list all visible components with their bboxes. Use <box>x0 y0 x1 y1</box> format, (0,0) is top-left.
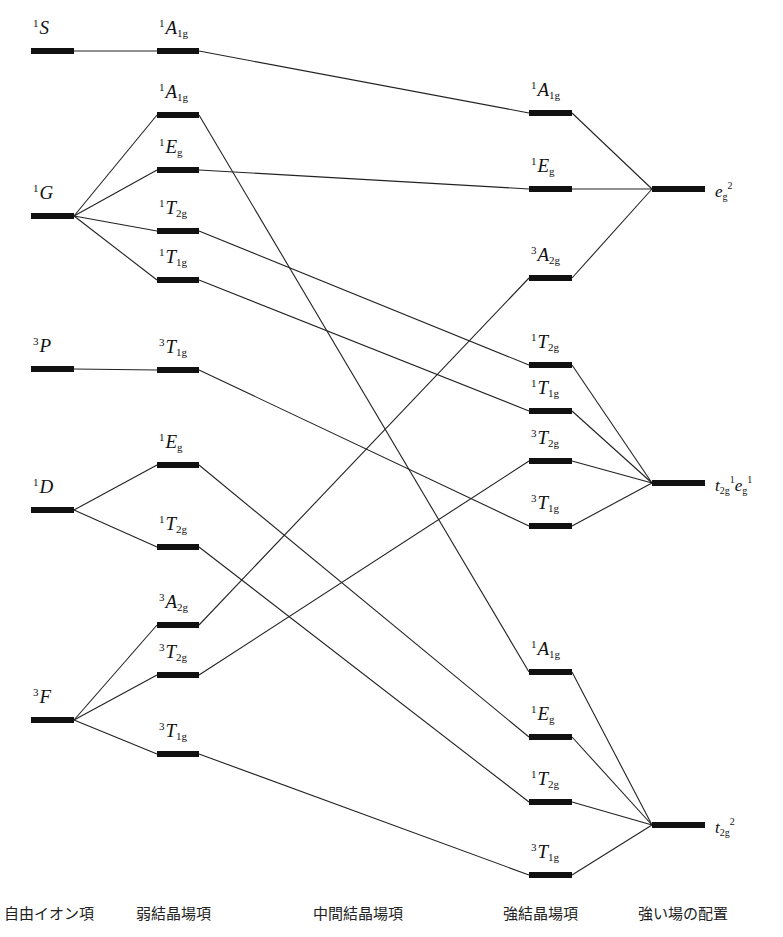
level-bar-S_1Eg_a <box>529 186 572 192</box>
level-bar-S_1Eg_c <box>529 734 572 740</box>
term-label-W_1A1g_G: 1A1g <box>159 82 188 101</box>
config-label-C_t2geg: t2g1eg1 <box>715 477 752 494</box>
correlation-line <box>74 625 157 720</box>
term-label-F_1G: 1G <box>33 183 53 202</box>
level-bar-W_1A1g_G <box>157 112 199 118</box>
term-label-F_3P: 3P <box>33 336 51 355</box>
level-bar-F_1S <box>31 48 74 54</box>
level-bar-F_1D <box>31 507 74 513</box>
correlation-line <box>199 465 529 737</box>
term-label-W_3T1g_F: 3T1g <box>159 721 187 740</box>
config-label-C_t2g2: t2g2 <box>715 819 735 836</box>
correlation-line <box>74 115 157 216</box>
level-bar-S_3T1g_c <box>529 872 572 878</box>
term-label-F_3F: 3F <box>33 687 51 706</box>
term-label-S_1T2g_c: 1T2g <box>531 769 559 788</box>
level-bar-W_3T2g_F <box>157 672 199 678</box>
correlation-line <box>199 280 529 411</box>
correlation-line <box>572 672 652 825</box>
column-title-strong-field-config: 強い場の配置 <box>638 902 728 923</box>
level-bar-F_3F <box>31 717 74 723</box>
correlation-line <box>199 461 529 675</box>
level-bar-W_1T1g_G <box>157 277 199 283</box>
correlation-line <box>572 113 652 189</box>
term-label-W_3T1g_P: 3T1g <box>159 337 187 356</box>
term-label-S_1A1g_c: 1A1g <box>531 639 560 658</box>
level-bar-S_1A1g_a <box>529 110 572 116</box>
level-bar-S_3T2g_b <box>529 458 572 464</box>
term-label-S_3T2g_b: 3T2g <box>531 428 559 447</box>
correlation-diagram <box>0 0 783 937</box>
correlation-line <box>572 365 652 483</box>
level-bar-S_1A1g_c <box>529 669 572 675</box>
level-bar-C_t2g2 <box>652 822 705 828</box>
level-bar-W_3T1g_P <box>157 367 199 373</box>
column-title-weak-field: 弱結晶場項 <box>136 902 211 923</box>
term-label-S_1A1g_a: 1A1g <box>531 80 560 99</box>
level-bar-W_1T2g_D <box>157 544 199 550</box>
correlation-line <box>199 170 529 189</box>
column-title-strong-field: 強結晶場項 <box>503 902 578 923</box>
level-bar-S_3T1g_b <box>529 523 572 529</box>
level-bar-W_3A2g_F <box>157 622 199 628</box>
term-label-W_1Eg_G: 1Eg <box>159 137 183 156</box>
term-label-S_1T1g_b: 1T1g <box>531 378 559 397</box>
term-label-S_3T1g_c: 3T1g <box>531 842 559 861</box>
correlation-line <box>74 675 157 720</box>
level-bar-W_1T2g_G <box>157 228 199 234</box>
config-label-C_eg2: eg2 <box>715 183 733 200</box>
level-bar-W_1A1g_S <box>157 48 199 54</box>
correlation-line <box>74 216 157 280</box>
correlation-line <box>74 216 157 231</box>
term-label-S_1Eg_a: 1Eg <box>531 156 555 175</box>
level-bar-C_eg2 <box>652 186 705 192</box>
term-label-S_3T1g_b: 3T1g <box>531 493 559 512</box>
correlation-line <box>74 720 157 754</box>
term-label-W_1A1g_S: 1A1g <box>159 18 188 37</box>
level-bar-F_1G <box>31 213 74 219</box>
term-label-W_1T2g_D: 1T2g <box>159 514 187 533</box>
correlation-line <box>572 737 652 825</box>
correlation-line <box>199 231 529 365</box>
correlation-line <box>572 802 652 825</box>
level-bar-F_3P <box>31 366 74 372</box>
term-label-S_1Eg_c: 1Eg <box>531 704 555 723</box>
correlation-line <box>572 825 652 875</box>
level-bar-W_3T1g_F <box>157 751 199 757</box>
correlation-line <box>199 278 529 625</box>
correlation-line <box>74 170 157 216</box>
energy-level-bars <box>31 48 705 878</box>
level-bar-W_1Eg_D <box>157 462 199 468</box>
correlation-line <box>572 189 652 278</box>
term-label-F_1D: 1D <box>33 477 53 496</box>
level-bar-S_3A2g <box>529 275 572 281</box>
level-bar-S_1T2g_b <box>529 362 572 368</box>
level-bar-S_1T2g_c <box>529 799 572 805</box>
correlation-line <box>572 483 652 526</box>
correlation-line <box>199 51 529 113</box>
term-label-F_1S: 1S <box>33 18 49 37</box>
level-bar-S_1T1g_b <box>529 408 572 414</box>
correlation-line <box>74 465 157 510</box>
correlation-line <box>74 510 157 547</box>
column-title-intermediate-field: 中間結晶場項 <box>313 902 403 923</box>
level-bar-C_t2geg <box>652 480 705 486</box>
term-label-W_3A2g_F: 3A2g <box>159 592 188 611</box>
correlation-line <box>199 547 529 802</box>
term-label-S_1T2g_b: 1T2g <box>531 332 559 351</box>
term-label-W_3T2g_F: 3T2g <box>159 642 187 661</box>
correlation-line <box>199 754 529 875</box>
level-bar-W_1Eg_G <box>157 167 199 173</box>
correlation-line <box>74 369 157 370</box>
term-label-W_1T2g_G: 1T2g <box>159 198 187 217</box>
term-label-S_3A2g: 3A2g <box>531 245 560 264</box>
term-label-W_1Eg_D: 1Eg <box>159 432 183 451</box>
column-title-free-ion: 自由イオン項 <box>4 902 94 923</box>
term-label-W_1T1g_G: 1T1g <box>159 247 187 266</box>
